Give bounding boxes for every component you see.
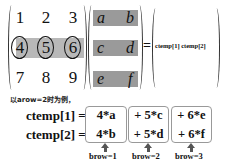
matrix-a-cell: 1 <box>13 8 27 28</box>
term: + 5*d <box>128 127 169 142</box>
matrix-a-cell: 3 <box>66 8 80 28</box>
matrix-b-cell: f <box>128 71 132 87</box>
matrix-b-cell: e <box>97 71 104 87</box>
term: 4*a <box>85 108 127 123</box>
matrix-a-cell: 9 <box>66 68 80 88</box>
matrix-b-cell: d <box>126 40 134 56</box>
matrix-a-cell: 6 <box>66 38 80 58</box>
equation-lhs: ctemp[1] = <box>26 108 86 124</box>
result-content: ctemp[1] ctemp[2] <box>155 42 206 49</box>
term: + 6*f <box>171 127 212 142</box>
matrix-a-cell: 4 <box>13 38 27 58</box>
brow-label: brow=2 <box>132 151 160 161</box>
matrix-a-cell: 5 <box>39 38 53 58</box>
term: + 6*e <box>171 108 212 123</box>
result-right-paren <box>213 8 220 88</box>
caption-text: 以arow=2时为例， <box>10 94 75 104</box>
equation-lhs: ctemp[2] = <box>26 127 86 143</box>
matrix-b-cell: a <box>97 10 105 26</box>
equals-sign: = <box>143 38 151 54</box>
matrix-a-cell: 8 <box>39 68 53 88</box>
brow-label: brow=1 <box>89 151 117 161</box>
matrix-b-cell: c <box>97 40 104 56</box>
matrix-b-cell: b <box>126 10 134 26</box>
matrix-a-cell: 7 <box>13 68 27 88</box>
matrix-a-cell: 2 <box>39 8 53 28</box>
brow-label: brow=3 <box>175 151 203 161</box>
term: 4*b <box>85 127 127 142</box>
matrix-b-right-paren <box>136 5 143 90</box>
matrix-a-right-paren <box>80 5 87 90</box>
term: + 5*c <box>128 108 169 123</box>
